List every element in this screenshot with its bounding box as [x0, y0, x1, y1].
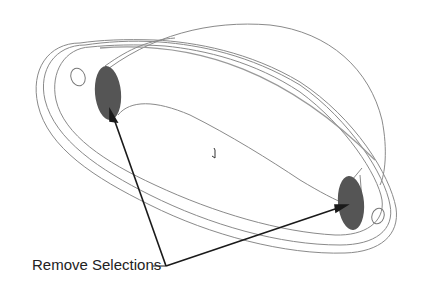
- dome-outline: [100, 24, 385, 185]
- left-selected-face[interactable]: [93, 65, 124, 121]
- outer-rim-2: [36, 40, 396, 254]
- cad-model-view: [0, 0, 421, 295]
- callout-label: Remove Selections: [32, 256, 161, 274]
- left-hole: [68, 66, 87, 88]
- inner-contour: [118, 104, 348, 205]
- coordinate-triad-icon: [212, 148, 215, 158]
- right-hole: [370, 206, 387, 225]
- callout-arrows: [110, 110, 347, 266]
- right-selected-face[interactable]: [336, 175, 367, 231]
- outer-rim-1: [43, 41, 390, 245]
